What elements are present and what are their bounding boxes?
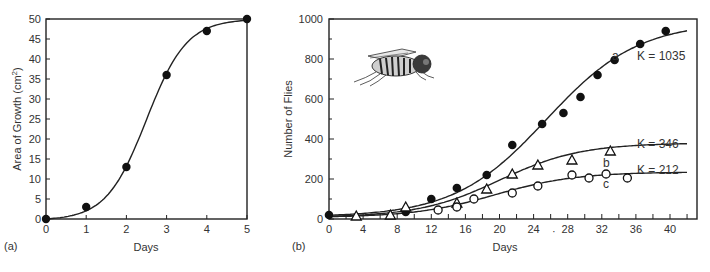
chart-a-panel-label: (a): [4, 240, 17, 252]
y-tick-label: 40: [29, 53, 41, 65]
x-tick-label: 40: [664, 223, 676, 235]
data-point: [243, 15, 251, 23]
x-tick-label: 3: [164, 223, 170, 235]
y-tick-label: 45: [29, 33, 41, 45]
data-point-c: [470, 195, 478, 203]
data-point-c: [434, 206, 442, 214]
y-tick-label: 1000: [299, 13, 323, 25]
chart-a-y-axis-title: Area of Growth (cm2): [10, 67, 23, 170]
y-tick-label: 25: [29, 113, 41, 125]
x-tick-label: 32: [596, 223, 608, 235]
chart-a-x-axis-title: Days: [133, 241, 159, 253]
housefly-illustration-icon: [354, 49, 434, 86]
y-tick-label: 15: [29, 153, 41, 165]
chart-b: 02004006008001000 0481216202428323640 a …: [282, 13, 697, 253]
x-tick-label: 1: [83, 223, 89, 235]
x-tick-label: 4: [360, 223, 366, 235]
curve-b-label: b: [603, 156, 610, 170]
data-point-a: [427, 195, 436, 204]
x-tick-label: 12: [425, 223, 437, 235]
y-tick-label: 0: [317, 213, 323, 225]
data-point: [122, 163, 130, 171]
data-point-a: [559, 109, 568, 118]
x-tick-label: 4: [204, 223, 210, 235]
x-tick-label: 0: [326, 223, 332, 235]
data-point-a: [576, 93, 585, 102]
data-point-a: [482, 171, 491, 180]
y-tick-label: 600: [305, 93, 323, 105]
x-tick-label: 8: [394, 223, 400, 235]
data-point-c: [568, 171, 576, 179]
k-annotation-c: K = 212: [637, 163, 679, 177]
x-tick-label: 24: [527, 223, 539, 235]
y-tick-label: 35: [29, 73, 41, 85]
chart-b-y-axis-title: Number of Flies: [282, 80, 294, 158]
chart-b-x-axis-title: Days: [492, 241, 518, 253]
y-tick-label: 20: [29, 133, 41, 145]
chart-a-x-ticks: 012345: [43, 215, 250, 235]
data-point-c: [453, 203, 461, 211]
data-point-b: [482, 184, 492, 193]
figure: 05101520253035404550 012345 Days Area of…: [0, 0, 710, 272]
x-tick-label: 0: [43, 223, 49, 235]
data-point-a: [636, 40, 645, 49]
x-tick-label: 20: [493, 223, 505, 235]
curve-a-label: a: [612, 49, 619, 63]
y-tick-label: 0: [35, 213, 41, 225]
data-point-c: [508, 189, 516, 197]
x-tick-label: 28: [562, 223, 574, 235]
data-point: [42, 215, 50, 223]
chart-a-y-ticks: 05101520253035404550: [29, 13, 50, 225]
data-point-a: [325, 211, 334, 220]
chart-a-fit-curve: [46, 20, 247, 219]
x-tick-label: 5: [244, 223, 250, 235]
y-tick-label: 5: [35, 193, 41, 205]
y-tick-label: 200: [305, 173, 323, 185]
data-point-b: [567, 155, 577, 164]
data-point: [203, 27, 211, 35]
fit-curve-b: [329, 144, 687, 217]
data-point: [82, 203, 90, 211]
k-annotation-a: K = 1035: [637, 49, 686, 63]
y-tick-label: 800: [305, 53, 323, 65]
chart-b-x-ticks: 0481216202428323640: [326, 214, 687, 235]
stray-dot-mark: ·: [552, 225, 556, 237]
x-tick-label: 36: [630, 223, 642, 235]
data-point-c: [585, 174, 593, 182]
x-tick-label: 2: [123, 223, 129, 235]
data-point-a: [593, 71, 602, 80]
data-point-a: [538, 120, 547, 129]
x-tick-label: 16: [459, 223, 471, 235]
y-tick-label: 400: [305, 133, 323, 145]
y-tick-label: 30: [29, 93, 41, 105]
chart-b-panel-label: (b): [292, 240, 305, 252]
chart-a: 05101520253035404550 012345 Days Area of…: [4, 13, 251, 253]
data-point: [162, 71, 170, 79]
y-tick-label: 10: [29, 173, 41, 185]
data-point-a: [661, 27, 670, 36]
curve-c-label-visible: c: [603, 177, 609, 191]
data-point-c: [623, 174, 631, 182]
data-point-b: [401, 202, 411, 211]
data-point-a: [453, 184, 462, 193]
data-point-a: [508, 141, 517, 150]
data-point-c: [534, 182, 542, 190]
y-tick-label: 50: [29, 13, 41, 25]
k-annotation-b: K = 346: [637, 137, 679, 151]
